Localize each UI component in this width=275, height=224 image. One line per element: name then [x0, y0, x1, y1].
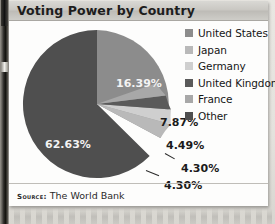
legend-swatch-icon — [185, 112, 193, 120]
legend-item-united-states: United States — [185, 25, 268, 42]
pie-svg — [13, 25, 181, 183]
source-note: Source: The World Bank — [9, 183, 268, 207]
page-text-bleed — [14, 208, 272, 224]
chart-title-bar: Voting Power by Country — [9, 1, 268, 21]
legend-swatch-icon — [185, 62, 193, 70]
legend-item-germany: Germany — [185, 58, 268, 75]
legend-item-france: France — [185, 91, 268, 108]
page-title: Voting Power by Country — [9, 3, 195, 18]
legend-swatch-icon — [185, 79, 193, 87]
legend-item-label: United States — [198, 27, 268, 39]
legend-item-label: Other — [198, 110, 227, 122]
legend-item-label: Japan — [198, 44, 227, 56]
legend-swatch-icon — [185, 29, 193, 37]
legend-item-label: United Kingdom — [198, 77, 275, 89]
legend-item-japan: Japan — [185, 42, 268, 59]
book-spine-cap-top — [1, 0, 8, 26]
source-kicker: Source: — [9, 190, 47, 201]
plot-area: 16.39% 62.63% 7.87% 4.49% 4.30% 4.30% Un… — [9, 21, 268, 183]
legend-item-label: France — [198, 93, 232, 105]
slice-label-germany: 4.49% — [166, 139, 204, 152]
legend-swatch-icon — [185, 95, 193, 103]
legend-swatch-icon — [185, 46, 193, 54]
slice-label-united-kingdom: 4.30% — [181, 162, 219, 175]
pie-chart: 16.39% 62.63% 7.87% 4.49% 4.30% 4.30% — [13, 25, 181, 183]
legend-item-other: Other — [185, 108, 268, 125]
slice-label-other: 62.63% — [45, 138, 91, 151]
book-spine-cap-mid — [1, 62, 8, 72]
legend-item-united-kingdom: United Kingdom — [185, 75, 268, 92]
slice-label-united-states: 16.39% — [116, 77, 162, 90]
book-spine — [0, 0, 9, 224]
legend-item-label: Germany — [198, 60, 246, 72]
chart-card: Voting Power by Country 16.39% 62.63% — [9, 1, 268, 206]
chart-legend: United States Japan Germany United Kingd… — [185, 25, 268, 124]
source-text: The World Bank — [47, 190, 125, 201]
